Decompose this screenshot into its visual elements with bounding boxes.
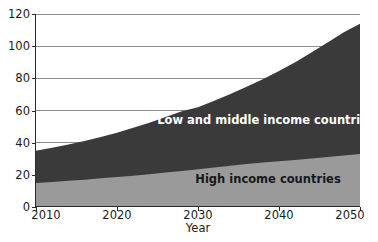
y-axis-tick-labels: 020406080100120: [8, 7, 30, 214]
x-axis-tick-labels: 20102020203020402050: [31, 208, 364, 222]
y-tick-label-60: 60: [15, 104, 30, 118]
y-tick-label-40: 40: [15, 136, 30, 150]
x-tick-label-2020: 2020: [102, 208, 131, 222]
x-tick-label-2040: 2040: [264, 208, 293, 222]
series-label-high-income-countries: High income countries: [195, 172, 341, 186]
series-label-low-and-middle-income-countries: Low and middle income countries: [157, 113, 375, 127]
y-tick-label-120: 120: [8, 7, 30, 21]
x-tick-label-2010: 2010: [31, 208, 60, 222]
chart-canvas: 020406080100120 20102020203020402050 Yea…: [0, 0, 378, 242]
y-tick-label-0: 0: [23, 200, 30, 214]
stacked-area-chart: 020406080100120 20102020203020402050 Yea…: [0, 0, 378, 242]
x-axis-title: Year: [185, 221, 211, 235]
y-tick-label-80: 80: [15, 71, 30, 85]
x-tick-label-2030: 2030: [183, 208, 212, 222]
y-tick-label-100: 100: [8, 39, 30, 53]
y-tick-label-20: 20: [15, 168, 30, 182]
x-tick-label-2050: 2050: [335, 208, 364, 222]
